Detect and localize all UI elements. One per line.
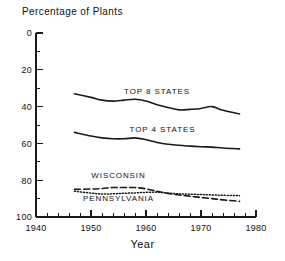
series-line xyxy=(75,132,240,149)
x-axis: 19401950196019701980 xyxy=(25,210,266,233)
y-tick-label: 20 xyxy=(21,65,32,75)
data-series-group xyxy=(75,94,240,202)
series-line xyxy=(75,94,240,114)
x-tick-label: 1950 xyxy=(80,223,101,233)
y-tick-label: 40 xyxy=(21,102,32,112)
series-annotation-label: TOP 8 STATES xyxy=(124,87,190,96)
y-axis: 100806040200 xyxy=(16,28,43,222)
series-annotation-label: WISCONSIN xyxy=(91,171,145,180)
x-tick-label: 1970 xyxy=(190,223,211,233)
series-annotation-label: PENNSYLVANIA xyxy=(83,194,154,203)
y-tick-label: 0 xyxy=(27,28,32,38)
x-tick-label: 1980 xyxy=(245,223,266,233)
y-tick-label: 80 xyxy=(21,176,32,186)
x-axis-title: Year xyxy=(0,238,285,250)
y-tick-label: 60 xyxy=(21,139,32,149)
series-annotation-label: TOP 4 STATES xyxy=(130,125,196,134)
y-tick-label: 100 xyxy=(16,212,32,222)
plot-area: 100806040200 19401950196019701980 TOP 8 … xyxy=(0,0,285,261)
chart-figure: Percentage of Plants 100806040200 194019… xyxy=(0,0,285,261)
x-tick-label: 1960 xyxy=(135,223,156,233)
x-tick-label: 1940 xyxy=(25,223,46,233)
